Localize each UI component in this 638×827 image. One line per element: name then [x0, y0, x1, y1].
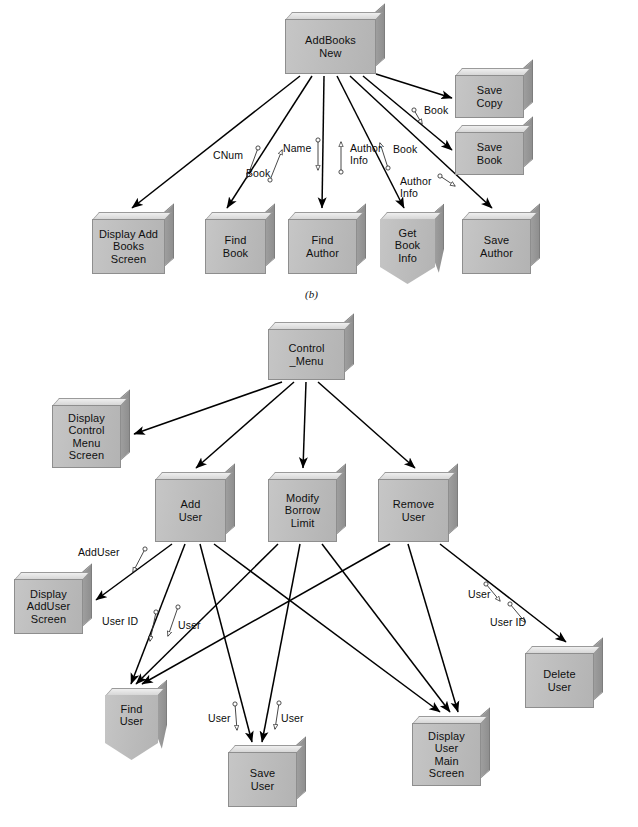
module-front-face: Delete User [525, 653, 594, 708]
data-couple-label: AddUser [78, 547, 120, 559]
module-label: Display Control Menu Screen [66, 412, 107, 462]
module-front-face: Display User Main Screen [412, 723, 481, 786]
module-front-face: Save User [228, 752, 297, 807]
module-label: Display Add Books Screen [97, 228, 160, 266]
data-couple-label: CNum [213, 150, 243, 162]
module-label: Delete User [541, 668, 577, 693]
module-front-face: Display Control Menu Screen [52, 405, 121, 468]
call-arrow-modifyborrow-to-finduser [136, 544, 278, 684]
call-arrow-adduser-to-dispusermain [214, 544, 440, 712]
data-couple-label: User [178, 620, 201, 632]
module-label: Remove User [391, 498, 437, 523]
module-dispusermain[interactable]: Display User Main Screen [412, 716, 490, 786]
call-arrow-controlmenu-to-adduser [196, 382, 294, 468]
module-label: Find Author [304, 234, 341, 259]
call-arrow-controlmenu-to-removeuser [318, 382, 415, 468]
module-front-face: Display AddUser Screen [14, 579, 83, 634]
call-arrow-controlmenu-to-modifyborrow [303, 382, 306, 468]
data-couple-label: Book [393, 144, 417, 156]
module-front-face: Control _Menu [268, 329, 345, 380]
data-couple-arrow [270, 150, 282, 180]
call-arrow-removeuser-to-finduser [142, 544, 390, 684]
module-label: Save Copy [474, 84, 504, 109]
data-couple-tail-circle [339, 170, 343, 174]
data-couple-tail-circle [412, 108, 416, 112]
call-arrow-addbooksnew-to-savecopy [376, 74, 452, 98]
data-couple-arrow [440, 176, 455, 186]
module-label: Save Book [475, 141, 504, 166]
module-removeuser[interactable]: Remove User [378, 472, 458, 542]
module-front-face: Modify Borrow Limit [268, 479, 337, 542]
module-front-face: Display Add Books Screen [92, 219, 165, 274]
module-top-face [105, 688, 165, 696]
module-finduser[interactable]: Find User [105, 688, 167, 760]
call-arrow-modifyborrow-to-dispusermain [322, 544, 450, 712]
module-findauthor[interactable]: Find Author [288, 212, 366, 274]
figure-caption-b: (b) [305, 288, 318, 300]
data-couple-label: Author Info [400, 176, 432, 199]
module-front-face: Remove User [378, 479, 449, 542]
data-couple-tail-circle [143, 547, 147, 551]
data-couple-label: User [281, 713, 304, 725]
structure-chart-page: AddBooks NewSave CopySave BookDisplay Ad… [0, 0, 638, 827]
module-savebook[interactable]: Save Book [455, 125, 533, 175]
module-top-face [380, 212, 442, 220]
data-couple-tail-circle [233, 702, 237, 706]
module-findbook[interactable]: Find Book [205, 212, 275, 274]
call-arrow-addbooksnew-to-findauthor [322, 76, 324, 208]
module-label: Save User [248, 767, 277, 792]
data-couple-tail-circle [484, 582, 488, 586]
module-displayadd[interactable]: Display Add Books Screen [92, 212, 174, 274]
data-couple-arrow [168, 607, 178, 636]
data-couple-arrow [414, 110, 422, 124]
module-front-face [105, 695, 158, 760]
call-arrow-removeuser-to-dispusermain [408, 544, 458, 712]
data-couple-label: Book [424, 105, 448, 117]
module-deleteuser[interactable]: Delete User [525, 646, 603, 708]
module-addbooksnew[interactable]: AddBooks New [285, 12, 385, 74]
module-label: Add User [177, 498, 205, 523]
module-front-face: Save Book [455, 132, 524, 175]
data-couple-arrow [235, 704, 237, 730]
data-couple-label: Author Info [350, 143, 382, 166]
module-label: Save Author [478, 234, 515, 259]
call-arrow-adduser-to-finduser [131, 544, 185, 684]
call-arrow-controlmenu-to-dispctrl [134, 382, 282, 434]
data-couple-label: User ID [102, 616, 138, 628]
module-adduser[interactable]: Add User [155, 472, 235, 542]
module-dispctrl[interactable]: Display Control Menu Screen [52, 398, 130, 468]
data-couple-label: User [468, 589, 491, 601]
module-front-face [380, 219, 435, 284]
data-couple-label: Name [283, 143, 311, 155]
module-getbookinfo[interactable]: Get Book Info [380, 212, 444, 284]
data-couple-label: Book [246, 168, 270, 180]
module-controlmenu[interactable]: Control _Menu [268, 322, 354, 380]
module-dispadduser[interactable]: Display AddUser Screen [14, 572, 92, 634]
module-label: Control _Menu [286, 342, 326, 367]
data-couple-tail-circle [176, 605, 180, 609]
data-couple-tail-circle [438, 174, 442, 178]
module-front-face: AddBooks New [285, 19, 376, 74]
module-front-face: Save Author [462, 219, 531, 274]
module-saveauthor[interactable]: Save Author [462, 212, 540, 274]
module-modifyborrow[interactable]: Modify Borrow Limit [268, 472, 346, 542]
data-couple-tail-circle [386, 166, 390, 170]
data-couple-tail-circle [154, 610, 158, 614]
module-label: Modify Borrow Limit [283, 492, 322, 530]
module-front-face: Find Book [205, 219, 266, 274]
module-saveuser[interactable]: Save User [228, 745, 306, 807]
module-label: AddBooks New [303, 34, 358, 59]
module-front-face: Find Author [288, 219, 357, 274]
module-label: Display AddUser Screen [25, 588, 73, 626]
data-couple-arrow [150, 612, 156, 641]
module-front-face: Save Copy [455, 75, 524, 118]
module-front-face: Add User [155, 479, 226, 542]
call-arrow-addbooksnew-to-displayadd [132, 76, 300, 208]
module-savecopy[interactable]: Save Copy [455, 68, 533, 118]
module-label: Display User Main Screen [426, 730, 467, 780]
data-couple-arrow [275, 703, 279, 729]
data-couple-tail-circle [277, 701, 281, 705]
module-label: Find Book [221, 234, 250, 259]
data-couple-tail-circle [256, 146, 260, 150]
data-couple-tail-circle [316, 138, 320, 142]
